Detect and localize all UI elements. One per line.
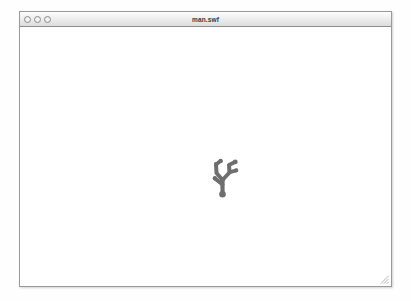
window-titlebar[interactable]: man.swf	[20, 12, 391, 27]
close-button-icon[interactable]	[24, 16, 31, 23]
window-resize-grip[interactable]	[379, 274, 390, 285]
window-title: man.swf	[20, 12, 391, 27]
window-content-area	[20, 27, 391, 286]
zoom-button-icon[interactable]	[44, 16, 51, 23]
application-window: man.swf	[19, 11, 392, 287]
branching-stick-figure-icon	[198, 153, 248, 199]
window-controls	[24, 12, 51, 27]
desktop-background: man.swf	[0, 0, 411, 301]
minimize-button-icon[interactable]	[34, 16, 41, 23]
